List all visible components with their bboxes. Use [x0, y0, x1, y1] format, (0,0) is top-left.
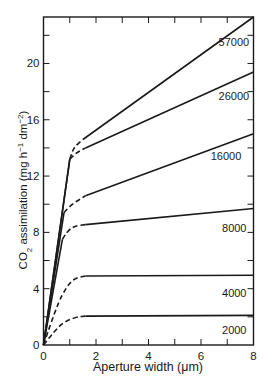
curve-final-solid	[86, 134, 254, 196]
curve-transition-dashed	[70, 148, 86, 159]
series-labels: 570002600016000800040002000	[211, 36, 249, 336]
y-axis-label: CO2 assimilation (mg h−1 dm−2)	[16, 110, 34, 269]
curve-final-solid	[86, 72, 254, 148]
curve-26000	[44, 72, 254, 345]
series-label-26000: 26000	[219, 90, 250, 102]
curve-transition-dashed	[64, 196, 86, 213]
series-label-57000: 57000	[219, 36, 250, 48]
y-tick-label: 8	[33, 226, 39, 238]
curve-final-solid	[86, 275, 254, 276]
curve-transition-dashed	[62, 225, 85, 240]
co2-assimilation-chart: 02468048121620 5700026000160008000400020…	[0, 0, 268, 391]
curve-transition-dashed	[44, 316, 86, 345]
curve-final-solid	[86, 315, 254, 316]
y-tick-label: 20	[27, 57, 40, 69]
x-tick-label: 8	[250, 350, 256, 362]
series-label-8000: 8000	[222, 222, 246, 234]
series-label-2000: 2000	[222, 324, 246, 336]
curve-initial-solid	[44, 239, 63, 345]
series-label-4000: 4000	[222, 287, 246, 299]
y-tick-label: 0	[33, 339, 39, 351]
curve-16000	[44, 134, 254, 345]
x-tick-label: 0	[40, 350, 46, 362]
series-label-16000: 16000	[211, 150, 242, 162]
x-axis-label: Aperture width (μm)	[93, 360, 203, 374]
y-tick-label: 4	[33, 283, 40, 295]
